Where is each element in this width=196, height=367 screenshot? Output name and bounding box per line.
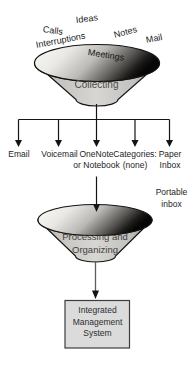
branch-label-line: Paper [148,149,192,160]
branch-label-email: Email [0,149,39,160]
processing-funnel-line: Organizing [55,243,135,256]
branch-connectors [19,104,170,141]
branch-label-paper-inbox: Paper Inbox [148,149,192,171]
collecting-funnel-label: Collecting [56,79,137,90]
branch-label-line: Inbox [148,160,192,171]
branch-arrowheads [15,140,173,147]
branch-label-line: Email [0,149,39,160]
integrated-system-line: Integrated [66,305,129,317]
integrated-system-line: System [66,328,129,340]
processing-funnel-line: Processing and [55,230,135,243]
integrated-system-label: Integrated Management System [66,305,129,340]
funnel-workflow-diagram: Calls Ideas Interruptions Notes Mail Mee… [0,0,196,367]
portable-inbox-line: inbox [147,199,196,211]
to-output-arrow [92,261,99,299]
integrated-system-line: Management [66,317,129,329]
portable-inbox-label: Portable inbox [147,187,196,210]
processing-funnel-label: Processing and Organizing [55,230,135,256]
portable-inbox-line: Portable [147,187,196,199]
